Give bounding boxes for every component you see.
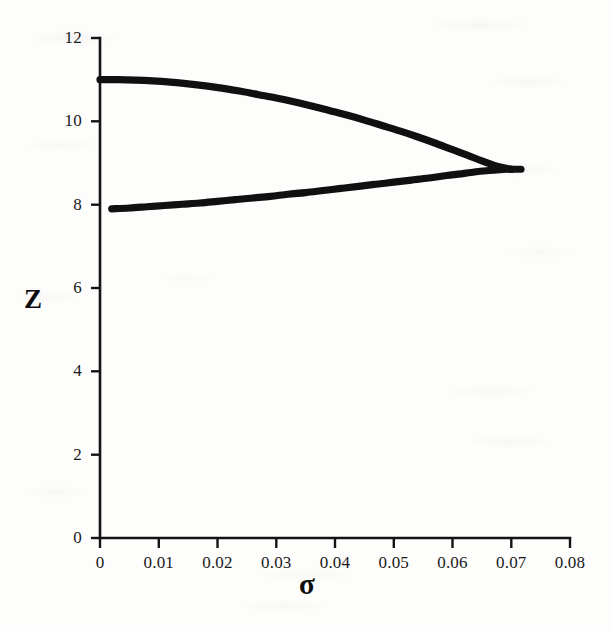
y-tick-label-10: 10 bbox=[46, 111, 82, 131]
y-axis-title: Z bbox=[24, 284, 42, 315]
x-tick-label-0.06: 0.06 bbox=[437, 553, 468, 573]
y-tick-label-8: 8 bbox=[46, 195, 82, 215]
x-axis-title: σ bbox=[299, 568, 315, 601]
x-tick-label-0.01: 0.01 bbox=[144, 553, 175, 573]
figure-root: 0 2 4 6 8 10 12 0 0.01 0.02 0.03 0.04 0.… bbox=[0, 0, 614, 631]
x-tick-label-0.05: 0.05 bbox=[379, 553, 410, 573]
x-tick-label-0.04: 0.04 bbox=[320, 553, 351, 573]
x-axis-ticks bbox=[100, 538, 570, 548]
x-tick-label-0.07: 0.07 bbox=[496, 553, 527, 573]
y-tick-label-6: 6 bbox=[46, 278, 82, 298]
x-tick-label-0.03: 0.03 bbox=[261, 553, 292, 573]
x-tick-label-0.02: 0.02 bbox=[202, 553, 233, 573]
x-tick-label-0.08: 0.08 bbox=[555, 553, 586, 573]
y-tick-label-12: 12 bbox=[46, 28, 82, 48]
plot-canvas bbox=[0, 0, 614, 631]
curve-upper-branch bbox=[100, 80, 511, 170]
x-tick-label-0: 0 bbox=[96, 553, 105, 573]
y-tick-label-4: 4 bbox=[46, 361, 82, 381]
y-tick-label-2: 2 bbox=[46, 445, 82, 465]
y-tick-label-0: 0 bbox=[46, 528, 82, 548]
curve-lower-branch bbox=[112, 169, 512, 209]
y-axis-ticks bbox=[91, 38, 100, 538]
